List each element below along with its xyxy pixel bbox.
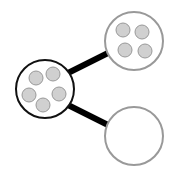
dot	[52, 87, 66, 101]
dot	[29, 71, 43, 85]
tree-diagram	[0, 0, 178, 172]
parent-node	[16, 60, 74, 118]
dot	[22, 88, 36, 102]
dot	[46, 67, 60, 81]
dot	[135, 25, 149, 39]
child-top-node	[105, 12, 163, 70]
dot	[116, 23, 130, 37]
edge-parent-top	[68, 53, 108, 73]
dot	[36, 98, 50, 112]
child-bottom-node	[105, 107, 163, 165]
edge-parent-bottom	[68, 105, 108, 125]
dot	[118, 43, 132, 57]
dot	[138, 44, 152, 58]
